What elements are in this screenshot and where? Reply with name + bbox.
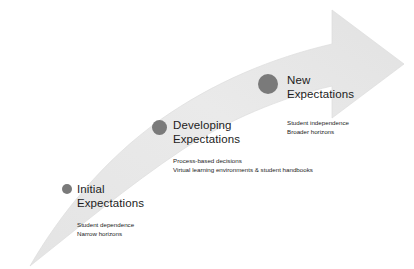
- diagram-canvas: Initial Expectations Student dependence …: [0, 0, 414, 269]
- stage-heading-line2: Expectations: [173, 132, 240, 146]
- stage-detail-line1: Process-based decisions: [173, 156, 313, 165]
- stage-details-developing: Process-based decisions Virtual learning…: [173, 156, 313, 174]
- stage-marker-new: [258, 74, 278, 94]
- stage-detail-line2: Virtual learning environments & student …: [173, 165, 313, 174]
- stage-details-initial: Student dependence Narrow horizons: [77, 220, 134, 238]
- stage-heading-line1: Developing: [173, 118, 240, 132]
- stage-details-new: Student independence Broader horizons: [287, 118, 349, 136]
- stage-detail-line2: Narrow horizons: [77, 229, 134, 238]
- stage-heading-line1: New: [287, 73, 354, 87]
- stage-detail-line1: Student independence: [287, 118, 349, 127]
- stage-detail-line1: Student dependence: [77, 220, 134, 229]
- stage-detail-line2: Broader horizons: [287, 127, 349, 136]
- stage-heading-developing: Developing Expectations: [173, 118, 240, 146]
- stage-heading-line2: Expectations: [287, 87, 354, 101]
- stage-marker-initial: [62, 184, 72, 194]
- stage-heading-new: New Expectations: [287, 73, 354, 101]
- stage-marker-developing: [152, 120, 167, 135]
- stage-heading-initial: Initial Expectations: [77, 182, 144, 210]
- stage-heading-line2: Expectations: [77, 196, 144, 210]
- stage-heading-line1: Initial: [77, 182, 144, 196]
